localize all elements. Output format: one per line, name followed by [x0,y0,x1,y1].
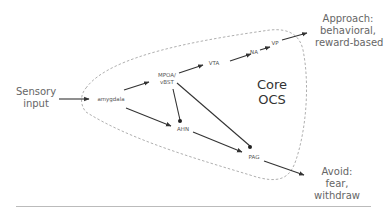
edge-vp-approach [282,33,307,40]
edge-ahn-pag [193,132,242,152]
node-vta: VTA [204,60,224,67]
avoid-line-3: withdraw [313,190,361,202]
mpoa-line-2: vBST [154,79,180,86]
bottom-divider [16,206,371,207]
edge-mpoa-ahn [173,89,180,120]
node-na: NA [248,49,260,56]
node-mpoa-vbst: MPOA/ vBST [154,72,180,85]
sensory-line-1: Sensory [14,86,58,98]
node-vp: VP [268,40,282,47]
edge-mpoa-vta [179,65,203,73]
approach-line-2: behavioral, [315,25,381,37]
ocs-diagram: Sensory input amygdala MPOA/ vBST VTA NA… [0,0,387,214]
core-ocs-label: Core OCS [254,78,290,108]
sensory-input-label: Sensory input [14,86,58,110]
core-line-2: OCS [254,93,290,108]
node-amygdala: amygdala [96,96,126,103]
edge-pag-avoid [264,161,304,175]
edge-mpoa-pag [177,83,250,146]
core-line-1: Core [254,78,290,93]
avoid-line-2: fear, [313,178,361,190]
avoid-output-label: Avoid: fear, withdraw [313,166,361,202]
node-ahn: AHN [174,126,192,133]
edge-amygdala-ahn [126,108,171,126]
avoid-line-1: Avoid: [313,166,361,178]
approach-output-label: Approach: behavioral, reward-based [315,13,381,49]
mpoa-line-1: MPOA/ [154,72,180,79]
approach-line-3: reward-based [315,37,381,49]
sensory-line-2: input [14,98,58,110]
edge-na-vp [260,47,270,50]
node-pag: PAG [245,154,263,161]
edge-amygdala-mpoa [124,82,149,90]
dot-ahn [178,119,182,123]
approach-line-1: Approach: [315,13,381,25]
dot-pag [248,145,252,149]
